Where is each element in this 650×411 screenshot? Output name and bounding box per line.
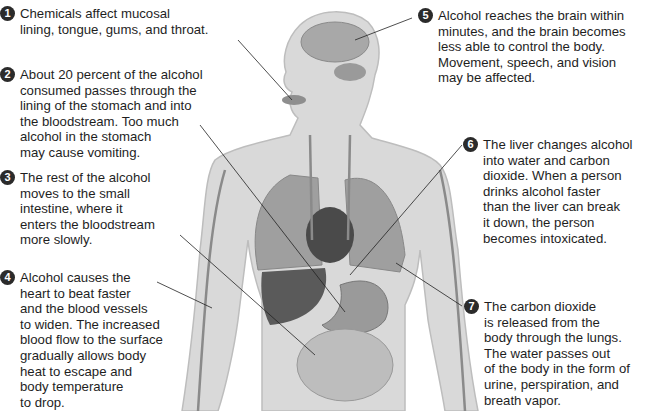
badge-4: 4	[0, 270, 15, 285]
callout-2: 2 About 20 percent of the alcohol consum…	[0, 67, 203, 161]
callout-6: 6 The liver changes alcohol into water a…	[463, 137, 633, 246]
badge-1: 1	[0, 6, 15, 21]
callout-5: 5 Alcohol reaches the brain within minut…	[418, 8, 626, 86]
callout-7: 7 The carbon dioxide is released from th…	[464, 299, 630, 408]
mouth-icon	[282, 95, 306, 105]
callout-text-6: The liver changes alcohol into water and…	[483, 137, 633, 246]
leader-line-1	[238, 40, 292, 100]
callout-text-3: The rest of the alcohol moves to the sma…	[20, 170, 155, 248]
badge-3: 3	[0, 170, 15, 185]
badge-6: 6	[463, 137, 478, 152]
badge-2: 2	[0, 67, 15, 82]
badge-5: 5	[418, 8, 433, 23]
cerebellum-icon	[334, 63, 366, 81]
small-intestine-icon	[297, 329, 393, 401]
heart-icon	[306, 207, 354, 263]
callout-text-2: About 20 percent of the alcohol consumed…	[20, 67, 203, 161]
brain-icon	[301, 22, 369, 62]
badge-7: 7	[464, 299, 479, 314]
callout-3: 3 The rest of the alcohol moves to the s…	[0, 170, 155, 248]
callout-text-4: Alcohol causes the heart to beat faster …	[20, 270, 163, 410]
callout-4: 4 Alcohol causes the heart to beat faste…	[0, 270, 163, 410]
callout-text-5: Alcohol reaches the brain within minutes…	[438, 8, 626, 86]
callout-1: 1 Chemicals affect mucosal lining, tongu…	[0, 6, 208, 37]
callout-text-1: Chemicals affect mucosal lining, tongue,…	[20, 6, 208, 37]
callout-text-7: The carbon dioxide is released from the …	[484, 299, 630, 408]
